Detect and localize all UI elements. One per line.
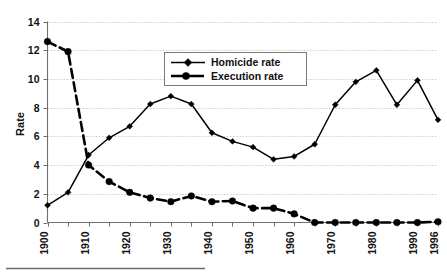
data-point-execution — [311, 219, 318, 226]
data-point-homicide — [168, 93, 174, 99]
homicide-rate-markers — [45, 67, 441, 208]
y-tick-label: 0 — [34, 217, 40, 229]
data-point-execution — [352, 219, 359, 226]
data-point-execution — [250, 205, 257, 212]
legend: Homicide rate Execution rate — [165, 53, 307, 86]
data-point-execution — [435, 218, 442, 225]
y-tick-label: 2 — [34, 188, 40, 200]
data-point-execution — [188, 193, 195, 200]
y-tick-marks-group — [44, 23, 48, 224]
y-tick-label: 14 — [28, 16, 40, 28]
data-point-homicide — [230, 138, 236, 144]
data-point-homicide — [435, 117, 441, 123]
y-tick-label: 8 — [34, 102, 40, 114]
y-tick-label: 6 — [34, 130, 40, 142]
y-tick-label: 4 — [34, 159, 40, 171]
x-tick-label: 1950 — [243, 231, 255, 255]
x-tick-label: 1980 — [366, 231, 378, 255]
x-tick-label: 1960 — [284, 231, 296, 255]
data-point-execution — [270, 205, 277, 212]
data-point-execution — [126, 189, 133, 196]
x-tick-label: 1910 — [79, 231, 91, 255]
legend-label-execution: Execution rate — [211, 70, 284, 82]
x-tick-label: 1900 — [38, 231, 50, 255]
y-tick-labels-group: 02468101214 — [28, 16, 40, 229]
data-point-execution — [394, 219, 401, 226]
y-axis-title: Rate — [14, 112, 26, 136]
data-point-execution — [147, 195, 154, 202]
chart-container: 02468101214 1900191019201930194019501960… — [0, 0, 447, 276]
data-point-execution — [332, 219, 339, 226]
legend-marker-execution — [182, 72, 189, 79]
x-tick-label: 1996 — [428, 231, 440, 255]
x-tick-labels-group: 1900191019201930194019501960197019801990… — [38, 231, 441, 255]
legend-label-homicide: Homicide rate — [211, 56, 281, 68]
line-chart: 02468101214 1900191019201930194019501960… — [0, 0, 447, 276]
data-point-execution — [65, 48, 72, 55]
data-point-execution — [106, 178, 113, 185]
data-point-execution — [85, 162, 92, 169]
x-tick-label: 1930 — [161, 231, 173, 255]
x-tick-label: 1940 — [202, 231, 214, 255]
x-tick-label: 1990 — [407, 231, 419, 255]
y-tick-label: 10 — [28, 73, 40, 85]
data-point-execution — [291, 211, 298, 218]
x-tick-label: 1920 — [120, 231, 132, 255]
data-point-execution — [168, 198, 175, 205]
x-tick-label: 1970 — [325, 231, 337, 255]
data-point-execution — [209, 198, 216, 205]
y-tick-label: 12 — [28, 44, 40, 56]
data-point-execution — [373, 219, 380, 226]
gridlines-group — [48, 23, 439, 195]
data-point-execution — [229, 198, 236, 205]
data-point-execution — [44, 38, 51, 45]
data-point-execution — [414, 219, 421, 226]
